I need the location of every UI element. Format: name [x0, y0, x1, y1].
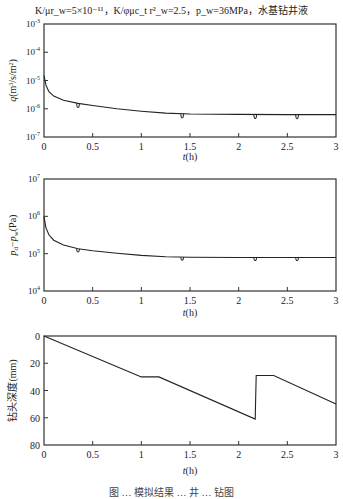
- y-tick-label: 60: [30, 413, 40, 424]
- y-tick-label: 104: [28, 285, 40, 296]
- x-tick-label: 0: [42, 141, 47, 152]
- data-dip-marker: [181, 114, 184, 118]
- plot-frame: [44, 179, 336, 291]
- x-tick-label: 1: [139, 295, 144, 306]
- y-tick-label: 40: [30, 386, 40, 397]
- x-tick-label: 3: [334, 141, 339, 152]
- y-tick-label: 0: [35, 331, 40, 342]
- y-tick-label: 107: [28, 173, 40, 184]
- y-tick-label: 10-5: [26, 75, 40, 86]
- x-axis-label: t(h): [183, 151, 197, 163]
- x-tick-label: 2: [236, 449, 241, 460]
- x-tick-label: 2: [236, 295, 241, 306]
- chart-panel-2: 00.511.522.53t(h)104105106107pd−pw(Pa): [7, 173, 339, 319]
- x-tick-label: 1: [139, 449, 144, 460]
- x-tick-label: 0.5: [86, 449, 99, 460]
- data-dip-marker: [254, 114, 257, 118]
- y-tick-label: 10-6: [26, 103, 40, 114]
- data-line: [44, 336, 336, 419]
- data-line: [44, 216, 336, 257]
- x-tick-label: 3: [334, 295, 339, 306]
- y-axis-label: pd−pw(Pa): [7, 215, 20, 257]
- x-tick-label: 2.5: [281, 449, 294, 460]
- x-tick-label: 2: [236, 141, 241, 152]
- y-tick-label: 20: [30, 358, 40, 369]
- x-tick-label: 0: [42, 295, 47, 306]
- y-axis-label: q(m3/s/m2): [7, 59, 19, 102]
- x-tick-label: 1.5: [184, 295, 197, 306]
- data-line: [44, 76, 336, 115]
- x-tick-label: 1.5: [184, 449, 197, 460]
- data-dip-marker: [77, 103, 80, 107]
- chart-panel-3: 00.511.522.53t(h)020406080钻头深度(mm): [6, 331, 339, 477]
- x-tick-label: 0.5: [86, 141, 99, 152]
- figure-caption: 图 … 模拟结果 … 井 … 钻图: [0, 484, 343, 499]
- y-axis-label: 钻头深度(mm): [6, 359, 19, 421]
- x-tick-label: 0: [42, 449, 47, 460]
- x-axis-label: t(h): [183, 465, 197, 477]
- x-tick-label: 2.5: [281, 141, 294, 152]
- chart-panel-1: 00.511.522.53t(h)10-710-610-510-410-3q(m…: [7, 18, 339, 163]
- y-tick-label: 10-3: [26, 18, 40, 29]
- y-tick-label: 80: [30, 440, 40, 451]
- y-tick-label: 105: [28, 248, 40, 259]
- y-tick-label: 10-4: [26, 46, 40, 57]
- x-tick-label: 1: [139, 141, 144, 152]
- x-tick-label: 0.5: [86, 295, 99, 306]
- x-tick-label: 2.5: [281, 295, 294, 306]
- x-axis-label: t(h): [183, 307, 197, 319]
- y-tick-label: 10-7: [26, 131, 40, 142]
- plot-frame: [44, 24, 336, 137]
- x-tick-label: 3: [334, 449, 339, 460]
- data-dip-marker: [296, 115, 299, 119]
- y-tick-label: 106: [28, 210, 40, 221]
